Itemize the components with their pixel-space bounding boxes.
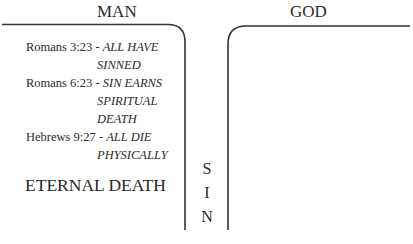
verse-ref: Romans 6:23 - [26, 76, 103, 90]
verse-text-cont: SINNED [97, 56, 141, 74]
verse-text-cont: SPIRITUAL [97, 92, 157, 110]
verse-romans-3-23: Romans 3:23 - ALL HAVE [26, 38, 158, 56]
verse-text: ALL HAVE [103, 40, 159, 54]
god-cliff-edge [228, 26, 410, 230]
sin-letter-n: N [197, 208, 217, 226]
verse-text-cont: DEATH [97, 110, 137, 128]
verse-ref: Hebrews 9:27 - [26, 130, 106, 144]
verse-romans-6-23: Romans 6:23 - SIN EARNS [26, 74, 162, 92]
god-heading: GOD [290, 2, 327, 22]
verse-text: SIN EARNS [103, 76, 162, 90]
man-heading: MAN [97, 2, 137, 22]
verse-text: ALL DIE [106, 130, 151, 144]
verse-text-cont: PHYSICALLY [97, 146, 168, 164]
sin-letter-i: I [197, 184, 217, 202]
eternal-death-label: ETERNAL DEATH [25, 175, 166, 196]
verse-hebrews-9-27: Hebrews 9:27 - ALL DIE [26, 128, 151, 146]
verse-ref: Romans 3:23 - [26, 40, 103, 54]
sin-letter-s: S [197, 160, 217, 178]
